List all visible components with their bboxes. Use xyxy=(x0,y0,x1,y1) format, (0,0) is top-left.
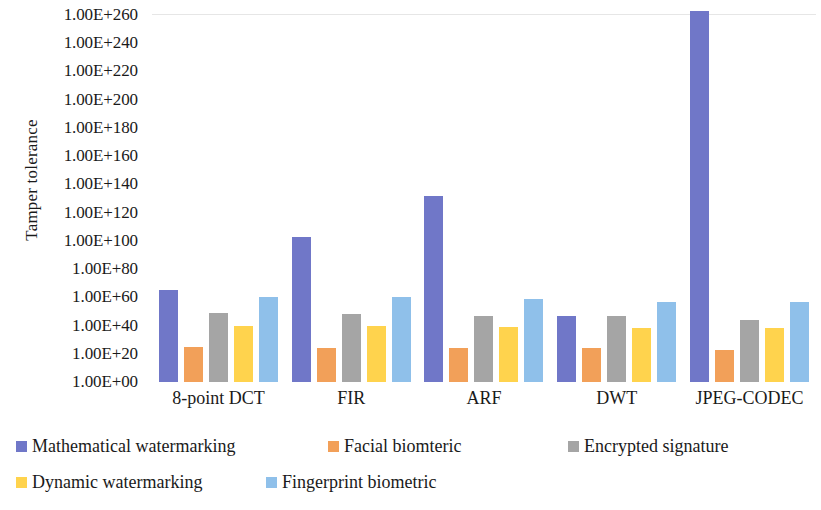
y-axis-tick-label: 1.00E+60 xyxy=(72,288,138,305)
bar[interactable] xyxy=(209,313,228,382)
bar[interactable] xyxy=(607,316,626,382)
legend-swatch-icon xyxy=(266,477,277,488)
y-axis-tick-label: 1.00E+40 xyxy=(72,316,138,333)
y-axis-tick-label: 1.00E+200 xyxy=(64,90,138,107)
bar[interactable] xyxy=(790,302,809,382)
bar[interactable] xyxy=(632,328,651,382)
bar[interactable] xyxy=(317,348,336,382)
bar-group xyxy=(152,8,285,382)
bar[interactable] xyxy=(474,316,493,382)
y-axis-tick-label: 1.00E+20 xyxy=(72,344,138,361)
bar[interactable] xyxy=(657,302,676,382)
x-axis-category-label: DWT xyxy=(550,388,683,409)
bar[interactable] xyxy=(524,299,543,382)
legend-label: Encrypted signature xyxy=(584,437,728,455)
bar[interactable] xyxy=(582,348,601,382)
bar[interactable] xyxy=(449,348,468,382)
legend-label: Fingerprint biometric xyxy=(282,473,436,491)
x-axis-category-labels: 8-point DCTFIRARFDWTJPEG-CODEC xyxy=(152,388,816,409)
bar[interactable] xyxy=(740,320,759,382)
bar[interactable] xyxy=(765,328,784,382)
bar[interactable] xyxy=(292,237,311,382)
legend-row: Dynamic watermarkingFingerprint biometri… xyxy=(16,464,816,500)
legend-swatch-icon xyxy=(328,441,339,452)
legend-swatch-icon xyxy=(16,477,27,488)
legend-row: Mathematical watermarkingFacial biomteri… xyxy=(16,428,816,464)
x-axis-category-label: ARF xyxy=(418,388,551,409)
legend-item[interactable]: Dynamic watermarking xyxy=(16,473,202,491)
bar[interactable] xyxy=(184,347,203,382)
bar-chart: Tamper tolerance 1.00E+2601.00E+2401.00E… xyxy=(0,0,821,510)
bar-group xyxy=(418,8,551,382)
legend-item[interactable]: Encrypted signature xyxy=(568,437,728,455)
y-axis-tick-label: 1.00E+120 xyxy=(64,203,138,220)
bar-group xyxy=(285,8,418,382)
legend-label: Mathematical watermarking xyxy=(32,437,235,455)
bar[interactable] xyxy=(342,314,361,382)
chart-legend: Mathematical watermarkingFacial biomteri… xyxy=(16,428,816,500)
y-axis-tick-label: 1.00E+260 xyxy=(64,6,138,23)
legend-label: Dynamic watermarking xyxy=(32,473,202,491)
y-axis-tick-label: 1.00E+160 xyxy=(64,147,138,164)
y-axis-tick-label: 1.00E+220 xyxy=(64,62,138,79)
plot-area xyxy=(152,8,816,382)
legend-swatch-icon xyxy=(568,441,579,452)
y-axis-tick-label: 1.00E+180 xyxy=(64,118,138,135)
bar[interactable] xyxy=(367,326,386,382)
bar[interactable] xyxy=(259,297,278,382)
y-axis-tick-label: 1.00E+140 xyxy=(64,175,138,192)
y-axis-tick-label: 1.00E+240 xyxy=(64,34,138,51)
y-axis-tick-label: 1.00E+100 xyxy=(64,231,138,248)
bar[interactable] xyxy=(690,11,709,382)
legend-item[interactable]: Facial biomteric xyxy=(328,437,461,455)
y-axis-tick-label: 1.00E+00 xyxy=(72,373,138,390)
y-axis-tick-label: 1.00E+80 xyxy=(72,260,138,277)
x-axis-category-label: JPEG-CODEC xyxy=(683,388,816,409)
x-axis-category-label: 8-point DCT xyxy=(152,388,285,409)
bar[interactable] xyxy=(424,196,443,382)
bar[interactable] xyxy=(234,326,253,382)
legend-item[interactable]: Fingerprint biometric xyxy=(266,473,436,491)
bar[interactable] xyxy=(557,316,576,382)
legend-label: Facial biomteric xyxy=(344,437,461,455)
bar-group xyxy=(550,8,683,382)
bar[interactable] xyxy=(392,297,411,382)
bar[interactable] xyxy=(499,327,518,382)
bar-groups xyxy=(152,8,816,382)
bar[interactable] xyxy=(715,350,734,382)
legend-item[interactable]: Mathematical watermarking xyxy=(16,437,235,455)
bar-group xyxy=(683,8,816,382)
x-axis-category-label: FIR xyxy=(285,388,418,409)
bar[interactable] xyxy=(159,290,178,382)
legend-swatch-icon xyxy=(16,441,27,452)
